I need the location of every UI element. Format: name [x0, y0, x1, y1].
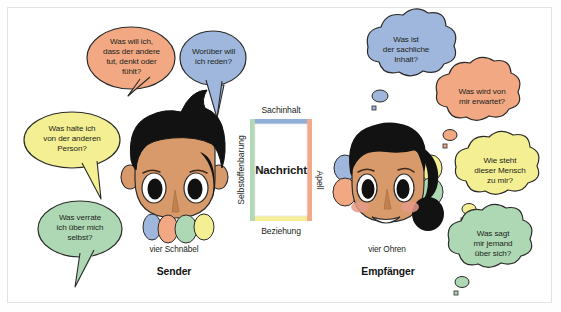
receiver-role-label: Empfänger [342, 266, 434, 279]
bubble-text-receiver-beziehung: Wie steht dieser Mensch zu mir? [458, 156, 542, 186]
receiver-head [333, 122, 444, 231]
bubble-text-receiver-apell: Was wird von mir erwartet? [440, 87, 524, 107]
diagram-canvas: Was will ich, dass der andere tut, denkt… [0, 0, 561, 312]
square-label-beziehung: Beziehung [243, 226, 319, 236]
sender-role-label: Sender [135, 266, 213, 279]
square-label-nachricht: Nachricht [244, 163, 318, 177]
sender-beaks-label: vier Schnäbel [127, 244, 221, 254]
bubble-text-receiver-selbstoffenbarung: Was sagt mir jemand über sich? [451, 229, 535, 259]
bubble-text-sender-selbstoffenbarung: Was verrate ich über mich selbst? [39, 213, 121, 243]
sender-beaks [143, 214, 214, 243]
bubble-text-sender-sachinhalt: Worüber will ich reden? [182, 47, 245, 67]
bubble-text-sender-apell: Was will ich, dass der andere tut, denkt… [86, 37, 177, 76]
bubble-text-receiver-sachinhalt: Was ist der sachliche Inhalt? [365, 35, 447, 65]
receiver-ears-label: vier Ohren [345, 244, 429, 254]
bubble-text-sender-beziehung: Was halte ich von der anderen Person? [25, 124, 119, 154]
square-label-sachinhalt: Sachinhalt [243, 105, 319, 115]
square-label-selbstoffenbarung: Selbstoffenbarung [236, 135, 246, 205]
square-label-apell: Apell [315, 170, 325, 189]
sender-head [121, 90, 228, 243]
